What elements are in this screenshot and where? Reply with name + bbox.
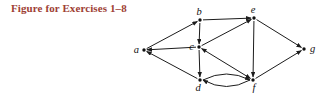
vertex-dot-g bbox=[302, 47, 305, 50]
edge-e-f bbox=[253, 21, 254, 77]
edge-f-g bbox=[256, 51, 302, 79]
vertex-label-b: b bbox=[196, 6, 201, 17]
vertex-a: a bbox=[134, 44, 146, 55]
vertex-b: b bbox=[196, 6, 201, 22]
edge-b-c bbox=[199, 23, 200, 44]
vertex-label-d: d bbox=[195, 82, 201, 93]
vertex-label-c: c bbox=[189, 41, 194, 52]
graph-canvas: abcdefg bbox=[0, 0, 328, 101]
vertex-f: f bbox=[251, 78, 257, 93]
vertex-dot-c bbox=[197, 45, 200, 48]
vertex-e: e bbox=[251, 4, 256, 20]
edge-e-g bbox=[257, 20, 302, 48]
edge-c-e bbox=[202, 19, 252, 45]
vertex-dot-a bbox=[142, 48, 145, 51]
vertex-label-g: g bbox=[310, 43, 315, 54]
edge-f-d bbox=[203, 80, 250, 87]
edge-d-f bbox=[203, 74, 250, 80]
vertex-dot-e bbox=[252, 16, 255, 19]
edge-c-d bbox=[199, 50, 200, 77]
vertex-label-a: a bbox=[134, 44, 139, 55]
edge-b-e bbox=[203, 18, 251, 20]
vertex-g: g bbox=[302, 43, 315, 54]
edge-d-a bbox=[147, 51, 198, 78]
vertex-label-f: f bbox=[253, 82, 258, 93]
vertex-dot-b bbox=[198, 18, 201, 21]
vertex-d: d bbox=[195, 78, 201, 93]
vertex-label-e: e bbox=[251, 4, 256, 15]
